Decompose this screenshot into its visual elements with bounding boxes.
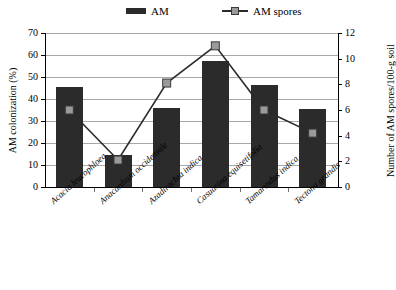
- left-y-axis-title: AM colonization (%): [7, 46, 18, 176]
- spores-marker-5: [309, 129, 317, 137]
- spores-marker-0: [65, 106, 73, 114]
- x-axis-tick: [94, 188, 95, 192]
- right-axis-tick: [338, 136, 342, 137]
- right-axis-tick-label: 12: [345, 28, 367, 38]
- legend-item-am-spores: AM spores: [222, 2, 302, 20]
- x-axis-tick: [288, 188, 289, 192]
- spores-line-path: [69, 46, 312, 160]
- right-axis-tick: [338, 187, 342, 188]
- legend-line-marker-swatch-icon: [222, 6, 248, 16]
- right-axis-tick-label: 6: [345, 105, 367, 115]
- left-axis-tick-label: 50: [16, 72, 38, 82]
- cropped-caption-strip: [30, 283, 370, 290]
- right-axis-tick-label: 10: [345, 54, 367, 64]
- left-axis-tick-label: 20: [16, 138, 38, 148]
- legend-item-am: AM: [126, 2, 169, 20]
- right-y-axis-title: Number of AM spores/100-g soil: [385, 36, 396, 186]
- spores-marker-1: [114, 156, 122, 164]
- left-axis-tick-label: 30: [16, 116, 38, 126]
- left-axis-tick-label: 60: [16, 50, 38, 60]
- left-axis-tick-label: 40: [16, 94, 38, 104]
- right-axis-tick-label: 8: [345, 79, 367, 89]
- spores-marker-3: [211, 42, 219, 50]
- right-axis-tick: [338, 59, 342, 60]
- right-axis-tick-label: 0: [345, 182, 367, 192]
- left-axis-tick-label: 70: [16, 28, 38, 38]
- right-axis-tick-label: 4: [345, 131, 367, 141]
- spores-marker-4: [260, 106, 268, 114]
- legend-label-am: AM: [151, 5, 169, 17]
- x-axis-tick: [240, 188, 241, 192]
- left-axis-tick-label: 10: [16, 160, 38, 170]
- x-axis-tick: [191, 188, 192, 192]
- x-axis-tick: [142, 188, 143, 192]
- right-axis-tick: [338, 161, 342, 162]
- right-axis-tick: [338, 84, 342, 85]
- chart-legend: AM AM spores: [0, 2, 389, 22]
- left-axis-tick-label: 0: [16, 182, 38, 192]
- right-axis-tick-label: 2: [345, 156, 367, 166]
- legend-bar-swatch-icon: [126, 8, 146, 14]
- right-axis-tick: [338, 110, 342, 111]
- right-axis-tick: [338, 33, 342, 34]
- left-axis-tick: [41, 187, 45, 188]
- legend-label-am-spores: AM spores: [253, 5, 302, 17]
- spores-marker-2: [163, 79, 171, 87]
